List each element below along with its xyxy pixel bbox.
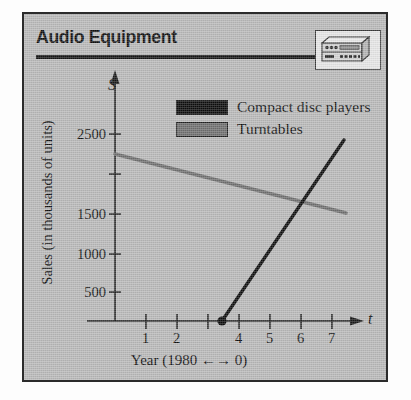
- xtick-label-6: 6: [297, 330, 304, 347]
- y-axis-label: Sales (in thousands of units): [39, 118, 56, 288]
- ytick-label-500: 500: [50, 284, 106, 301]
- xtick-label-5: 5: [266, 330, 273, 347]
- plot-area: [24, 14, 388, 382]
- ytick-label-2500: 2500: [50, 126, 106, 143]
- x-axis-label: Year (1980 ←→ 0): [24, 352, 354, 369]
- xtick-label-1: 1: [142, 330, 149, 347]
- xtick-label-4: 4: [235, 330, 242, 347]
- chart-figure: Audio Equipment: [0, 0, 411, 400]
- y-axis-variable: S: [108, 76, 116, 94]
- ytick-label-1000: 1000: [50, 246, 106, 263]
- xtick-label-7: 7: [328, 330, 335, 347]
- chart-panel: Audio Equipment: [22, 12, 388, 382]
- xtick-label-2: 2: [173, 330, 180, 347]
- x-axis-variable: t: [368, 310, 372, 328]
- ytick-label-1500: 1500: [50, 206, 106, 223]
